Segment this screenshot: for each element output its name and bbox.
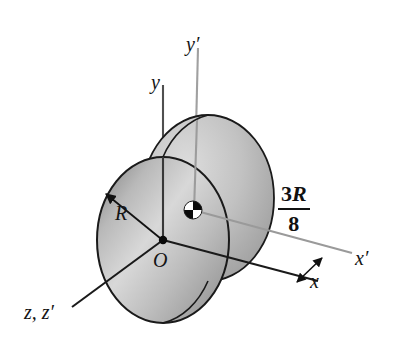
y-axis-label: y xyxy=(151,72,160,92)
z-axes-label: z, z′ xyxy=(24,302,54,322)
radius-label: R xyxy=(115,203,127,223)
origin-label: O xyxy=(153,250,167,270)
fraction-bar xyxy=(278,208,310,210)
dimension-numerator: 3R xyxy=(278,183,310,206)
figure-root: y y′ R O z, z′ x x′ 3R 8 xyxy=(0,0,394,354)
dimension-denominator: 8 xyxy=(278,212,310,235)
origin-dot-icon xyxy=(159,236,167,244)
dimension-label-3r-8: 3R 8 xyxy=(278,183,310,235)
dimension-numerator-coefficient: 3 xyxy=(281,181,292,206)
y-prime-axis-label: y′ xyxy=(186,34,199,54)
dimension-numerator-variable: R xyxy=(292,181,307,206)
x-prime-axis-label: x′ xyxy=(355,248,368,268)
x-axis-label: x xyxy=(310,271,319,291)
